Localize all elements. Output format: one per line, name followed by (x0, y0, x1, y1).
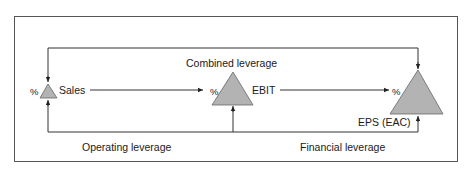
operating-leverage-bracket (48, 102, 233, 132)
financial-leverage-label: Financial leverage (300, 142, 385, 153)
ebit-percent: % (210, 87, 218, 97)
eps-label: EPS (EAC) (358, 117, 411, 128)
eps-percent: % (392, 87, 400, 97)
sales-triangle (40, 84, 57, 98)
combined-leverage-label: Combined leverage (186, 58, 277, 69)
sales-percent: % (30, 87, 38, 97)
sales-label: Sales (59, 85, 85, 96)
ebit-label: EBIT (252, 85, 275, 96)
operating-leverage-label: Operating leverage (82, 142, 171, 153)
